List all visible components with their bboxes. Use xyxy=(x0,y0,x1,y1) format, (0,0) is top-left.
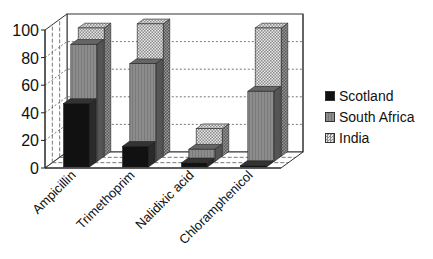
x-tick-label: Trimethoprim xyxy=(73,168,137,232)
legend-item-scotland: Scotland xyxy=(325,85,415,106)
y-tick-label: 0 xyxy=(30,160,39,177)
bar xyxy=(248,86,281,161)
x-tick-label: Nalidixic acid xyxy=(132,168,196,232)
legend-label: Scotland xyxy=(339,88,393,104)
x-axis: AmpicillinTrimethoprimNalidixic acidChlo… xyxy=(29,167,281,247)
legend: Scotland South Africa India xyxy=(325,85,415,148)
legend-item-south-africa: South Africa xyxy=(325,106,415,127)
bar xyxy=(182,158,215,167)
y-tick-label: 20 xyxy=(21,132,39,149)
y-tick-label: 100 xyxy=(12,22,39,39)
legend-swatch-south-africa xyxy=(325,112,335,122)
y-tick-label: 60 xyxy=(21,77,39,94)
legend-label: India xyxy=(339,130,369,146)
legend-swatch-india xyxy=(325,133,335,143)
legend-item-india: India xyxy=(325,127,415,148)
y-tick-label: 40 xyxy=(21,105,39,122)
legend-label: South Africa xyxy=(339,109,415,125)
bar xyxy=(64,99,97,167)
y-axis: 020406080100 xyxy=(12,22,45,177)
bar xyxy=(241,161,274,167)
y-tick-label: 80 xyxy=(21,50,39,67)
bar xyxy=(123,142,156,168)
legend-swatch-scotland xyxy=(325,91,335,101)
